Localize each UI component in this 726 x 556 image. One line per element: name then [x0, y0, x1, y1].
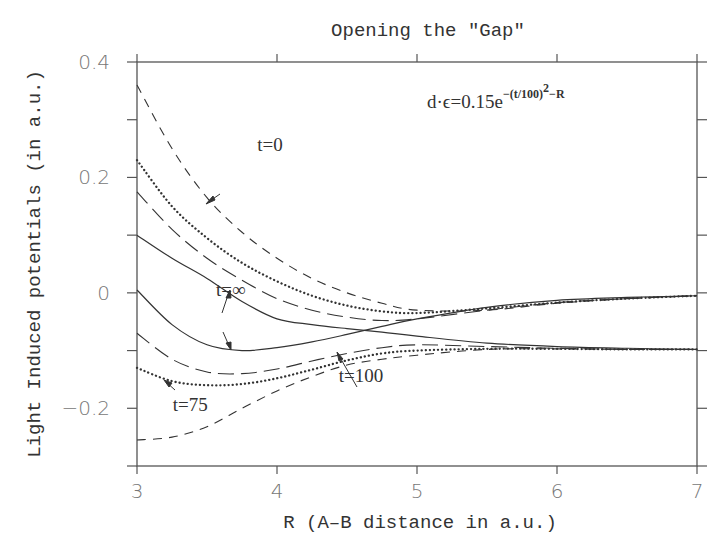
y-tick-label: 0.4	[78, 50, 110, 74]
axis-ticks	[127, 54, 707, 474]
y-tick-label: −0.2	[61, 396, 110, 420]
curve-label: t=0	[257, 134, 283, 155]
y-axis-label: Light Induced potentials (in a.u.)	[24, 70, 46, 458]
y-tick-labels: 0.40.20−0.2	[61, 50, 110, 420]
x-tick-label: 4	[271, 479, 284, 503]
plot-frame	[137, 62, 697, 466]
curve-t-100-upper	[137, 192, 697, 321]
y-tick-label: 0.2	[78, 165, 110, 189]
x-tick-label: 7	[691, 479, 704, 503]
curve-labels: t=0t=∞t=75t=100	[173, 134, 384, 415]
curve-t-100-lower	[137, 333, 697, 374]
annotation-arrows	[164, 194, 357, 390]
y-tick-label: 0	[97, 281, 110, 305]
x-tick-label: 6	[551, 479, 564, 503]
formula-exponent-tail: −R	[549, 87, 565, 101]
curve-t-0-upper	[137, 85, 697, 311]
curve-label: t=75	[173, 394, 208, 415]
x-tick-label: 3	[131, 479, 144, 503]
formula-annotation: d·ϵ=0.15e−(t/100)2−R	[427, 81, 565, 112]
formula-exponent: −(t/100)	[503, 87, 543, 101]
x-axis-label: R (A–B distance in a.u.)	[283, 512, 557, 534]
x-tick-labels: 34567	[131, 479, 704, 503]
curve-t-0-lower	[137, 349, 697, 440]
x-tick-label: 5	[411, 479, 424, 503]
chart-title: Opening the "Gap"	[331, 20, 525, 42]
svg-text:d·ϵ=0.15e−(t/100)2−R: d·ϵ=0.15e−(t/100)2−R	[427, 81, 565, 112]
curve-label: t=100	[339, 365, 384, 386]
curves	[137, 85, 697, 440]
curve-t-75-lower	[137, 349, 697, 386]
line-chart: Opening the "Gap" 34567 0.40.20−0.2 R (A…	[0, 0, 726, 556]
formula-base: d·ϵ=0.15e	[427, 91, 503, 112]
